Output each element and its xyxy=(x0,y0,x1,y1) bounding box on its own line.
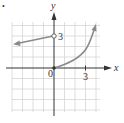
left-ray xyxy=(13,36,52,46)
y-axis-arrow-icon xyxy=(52,12,57,20)
origin-label: 0 xyxy=(48,68,53,79)
x-tick-label: 3 xyxy=(83,71,88,82)
y-axis-label: y xyxy=(50,0,56,11)
open-circle xyxy=(52,34,56,38)
bullet: • xyxy=(2,2,5,11)
x-axis-arrow-icon xyxy=(104,66,112,71)
y-tick-label: 3 xyxy=(58,31,63,42)
ray-arrow-icon xyxy=(13,41,21,47)
piecewise-graph: • y x 3 3 0 xyxy=(0,0,124,123)
x-axis-label: x xyxy=(113,62,119,73)
axes xyxy=(6,16,108,116)
